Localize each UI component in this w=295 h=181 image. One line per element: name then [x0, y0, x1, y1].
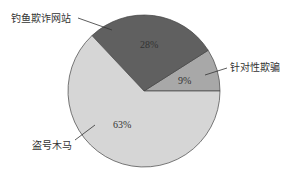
label-trojan: 盗号木马: [32, 139, 72, 151]
pct-trojan: 63%: [113, 119, 131, 130]
pie-slices: [68, 15, 220, 167]
pct-targeted: 9%: [178, 75, 191, 86]
pie-chart: 钓鱼欺诈网站 针对性欺骗 盗号木马 28% 9% 63%: [0, 0, 295, 181]
pct-phishing: 28%: [140, 39, 158, 50]
label-targeted: 针对性欺骗: [230, 61, 280, 73]
leader-line-phishing: [78, 18, 112, 30]
label-phishing: 钓鱼欺诈网站: [11, 12, 71, 24]
